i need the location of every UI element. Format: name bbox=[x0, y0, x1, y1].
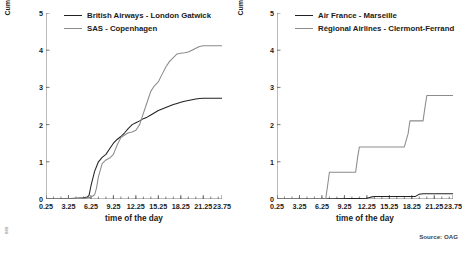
y-axis-tick-label: 2 bbox=[39, 120, 43, 129]
y-axis-tick-label: 3 bbox=[39, 83, 43, 92]
x-axis-tick-label: 3.25 bbox=[292, 202, 306, 211]
y-axis-tick-label: 5 bbox=[39, 9, 43, 18]
y-axis-label-right: Cumulative sum of weighted indirect conn… bbox=[237, 0, 251, 18]
y-axis-tick-label: 1 bbox=[270, 157, 274, 166]
y-axis-label-left: Cumulative sum of weighted indirect conn… bbox=[4, 0, 18, 18]
y-axis-tick-label: 1 bbox=[39, 157, 43, 166]
x-axis-tick-label: 6.25 bbox=[84, 202, 98, 211]
x-axis-label-right: time of the day bbox=[277, 214, 453, 223]
x-axis-label-left: time of the day bbox=[46, 214, 222, 223]
x-axis-tick-label: 9.25 bbox=[337, 202, 351, 211]
y-axis-tick-label: 2 bbox=[270, 120, 274, 129]
x-axis-tick-label: 3.25 bbox=[61, 202, 75, 211]
plot-area-right: 0123450.253.256.259.2512.2515.2518.2521.… bbox=[277, 13, 453, 199]
x-axis-tick-label: 6.25 bbox=[315, 202, 329, 211]
x-axis-tick-label: 0.25 bbox=[270, 202, 284, 211]
x-axis-tick-label: 12.25 bbox=[127, 202, 145, 211]
x-axis-tick-label: 23.75 bbox=[444, 202, 462, 211]
chart-panel-right: Cumulative sum of weighted indirect conn… bbox=[233, 0, 466, 253]
y-axis-tick-label: 4 bbox=[270, 46, 274, 55]
chart-svg-left bbox=[46, 13, 222, 199]
x-axis-tick-label: 23.75 bbox=[213, 202, 231, 211]
x-axis-tick-label: 9.25 bbox=[106, 202, 120, 211]
plot-area-left: 0123450.253.256.259.2512.2515.2518.2521.… bbox=[46, 13, 222, 199]
y-axis-tick-label: 4 bbox=[39, 46, 43, 55]
x-axis-tick-label: 21.25 bbox=[194, 202, 212, 211]
x-axis-tick-label: 0.25 bbox=[39, 202, 53, 211]
source-note: Source: OAG bbox=[419, 233, 458, 240]
y-axis-tick-label: 3 bbox=[270, 83, 274, 92]
corner-mark: ees bbox=[4, 227, 9, 234]
chart-panel-left: Cumulative sum of weighted indirect conn… bbox=[0, 0, 233, 253]
y-axis-tick-label: 5 bbox=[270, 9, 274, 18]
x-axis-tick-label: 12.25 bbox=[358, 202, 376, 211]
x-axis-tick-label: 21.25 bbox=[425, 202, 443, 211]
x-axis-tick-label: 18.25 bbox=[403, 202, 421, 211]
x-axis-tick-label: 18.25 bbox=[172, 202, 190, 211]
x-axis-tick-label: 15.25 bbox=[149, 202, 167, 211]
x-axis-tick-label: 15.25 bbox=[380, 202, 398, 211]
chart-svg-right bbox=[277, 13, 453, 199]
